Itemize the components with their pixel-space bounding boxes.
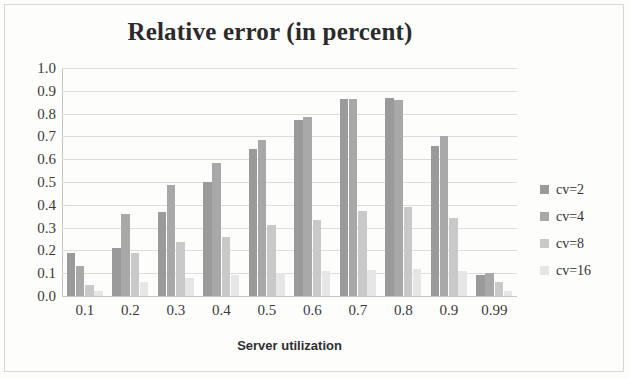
y-axis-tick-labels: 1.00.90.80.70.60.50.40.30.20.10.0 [8, 68, 56, 296]
bar [340, 99, 349, 296]
x-axis-tick-label: 0.3 [153, 302, 199, 319]
bar [485, 273, 494, 296]
legend-swatch-icon [540, 212, 549, 221]
bar [222, 237, 231, 296]
x-axis-tick-label: 0.99 [472, 302, 518, 319]
legend-item[interactable]: cv=16 [540, 257, 626, 284]
bar-group [290, 68, 336, 296]
bar [267, 225, 276, 296]
x-axis-tick-label: 0.9 [426, 302, 472, 319]
bar-group [153, 68, 199, 296]
chart-title: Relative error (in percent) [0, 18, 540, 46]
bar [258, 140, 267, 296]
bar [458, 271, 467, 296]
bar [385, 98, 394, 296]
bar [167, 185, 176, 296]
bar [249, 149, 258, 296]
bar-group [108, 68, 154, 296]
bar [276, 273, 285, 296]
bar [231, 275, 240, 296]
bar-group [199, 68, 245, 296]
bar-group [472, 68, 518, 296]
y-axis-tick-label: 0.7 [12, 128, 56, 145]
bar [94, 291, 103, 296]
legend-item-label: cv=16 [556, 263, 591, 279]
bar [158, 212, 167, 296]
bar-group [335, 68, 381, 296]
chart-legend: cv=2cv=4cv=8cv=16 [540, 176, 626, 284]
y-axis-tick-label: 0.4 [12, 196, 56, 213]
bar-group [244, 68, 290, 296]
legend-swatch-icon [540, 266, 549, 275]
gridline [62, 296, 517, 297]
bar [185, 278, 194, 296]
legend-item-label: cv=4 [556, 209, 584, 225]
bar [476, 275, 485, 296]
bar [367, 270, 376, 296]
bar [504, 291, 513, 296]
bar [176, 242, 185, 296]
y-axis-tick-label: 1.0 [12, 60, 56, 77]
legend-item[interactable]: cv=8 [540, 230, 626, 257]
bar [358, 211, 367, 297]
bar [121, 214, 130, 296]
y-axis-tick-label: 0.3 [12, 219, 56, 236]
x-axis-tick-label: 0.5 [244, 302, 290, 319]
bar [349, 99, 358, 296]
x-axis-tick-label: 0.8 [381, 302, 427, 319]
bar [313, 220, 322, 296]
bar [140, 282, 149, 296]
y-axis-tick-label: 0.1 [12, 265, 56, 282]
plot-area [62, 68, 517, 296]
y-axis-tick-label: 0.0 [12, 288, 56, 305]
legend-item[interactable]: cv=2 [540, 176, 626, 203]
legend-swatch-icon [540, 185, 549, 194]
bar [495, 282, 504, 296]
y-axis-tick-label: 0.8 [12, 105, 56, 122]
bar [203, 182, 212, 296]
legend-item-label: cv=2 [556, 182, 584, 198]
bar [413, 269, 422, 296]
bar [67, 253, 76, 296]
bar [322, 271, 331, 296]
x-axis-tick-labels: 0.10.20.30.40.50.60.70.80.90.99 [62, 302, 517, 326]
x-axis-tick-label: 0.7 [335, 302, 381, 319]
x-axis-tick-label: 0.1 [62, 302, 108, 319]
y-axis-tick-label: 0.9 [12, 82, 56, 99]
bar [449, 218, 458, 296]
bar [404, 207, 413, 296]
bar [440, 136, 449, 296]
bar [303, 117, 312, 296]
x-axis-tick-label: 0.4 [199, 302, 245, 319]
x-axis-title: Server utilization [62, 338, 517, 353]
x-axis-tick-label: 0.6 [290, 302, 336, 319]
y-axis-tick-label: 0.2 [12, 242, 56, 259]
y-axis-tick-label: 0.6 [12, 151, 56, 168]
legend-item[interactable]: cv=4 [540, 203, 626, 230]
bar [431, 146, 440, 296]
bar-group [62, 68, 108, 296]
bar [112, 248, 121, 296]
bar [85, 285, 94, 296]
y-axis-tick-label: 0.5 [12, 174, 56, 191]
chart-container: Relative error (in percent) 1.00.90.80.7… [0, 0, 630, 379]
bar [212, 163, 221, 296]
bar-group [426, 68, 472, 296]
x-axis-tick-label: 0.2 [108, 302, 154, 319]
legend-swatch-icon [540, 239, 549, 248]
bar [394, 100, 403, 296]
bar [131, 253, 140, 296]
bar-group [381, 68, 427, 296]
bar [76, 266, 85, 296]
legend-item-label: cv=8 [556, 236, 584, 252]
bar [294, 120, 303, 296]
